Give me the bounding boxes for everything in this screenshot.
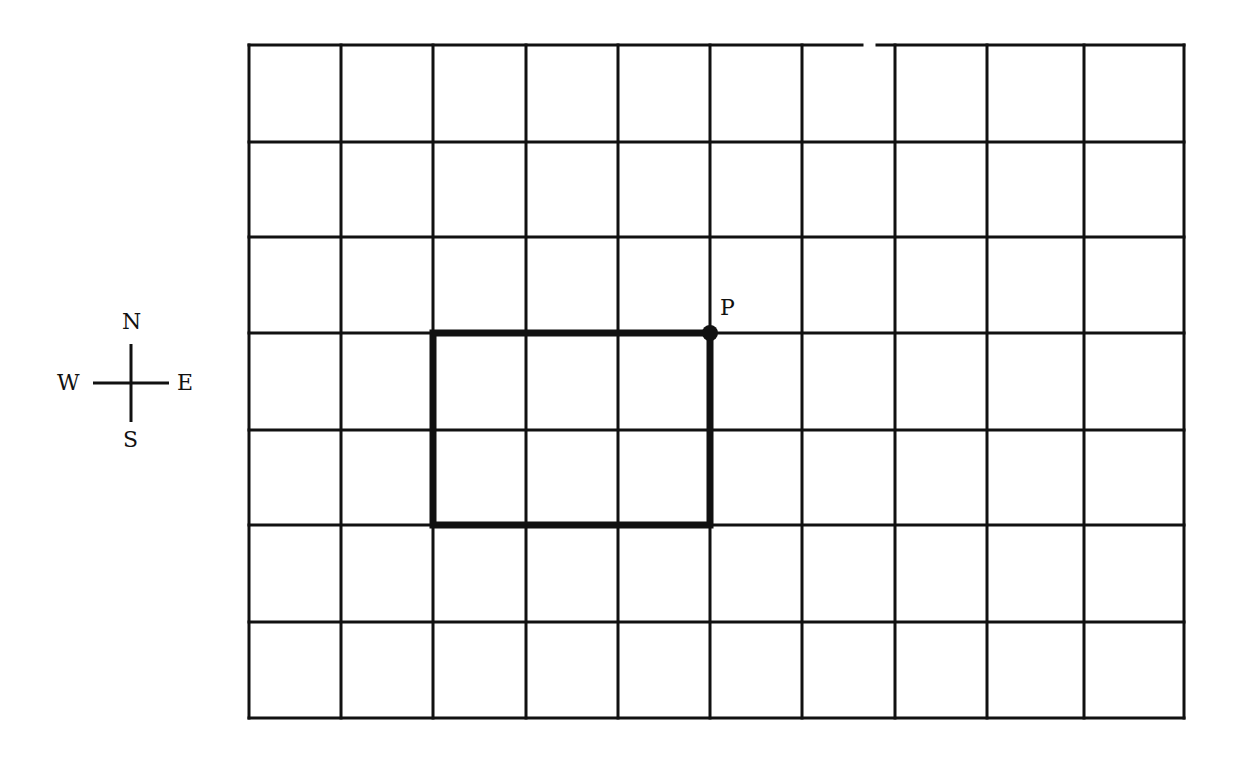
compass-east-label: E (177, 372, 193, 394)
point-p-marker (702, 325, 718, 341)
compass-west-label: W (57, 372, 80, 394)
compass-rose-icon (93, 344, 169, 422)
compass-south-label: S (123, 429, 138, 451)
compass-north-label: N (122, 311, 141, 333)
grid-lines (249, 45, 1184, 718)
point-p-label: P (720, 297, 735, 319)
